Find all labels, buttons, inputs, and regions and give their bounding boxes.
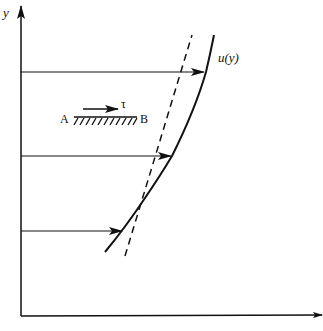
curve-label: u(y) — [218, 50, 239, 65]
wall-label-b: B — [140, 112, 148, 126]
y-axis-label: y — [1, 5, 9, 20]
wall-label-a: A — [60, 112, 69, 126]
tangent-dashed-line — [125, 35, 192, 256]
velocity-profile-diagram: y u(y) A B τ — [0, 0, 323, 331]
x-axis — [21, 315, 322, 316]
wall-hatching — [74, 118, 137, 125]
velocity-profile-curve — [105, 35, 214, 252]
shear-stress-label: τ — [121, 97, 126, 111]
wall-element — [74, 109, 137, 125]
